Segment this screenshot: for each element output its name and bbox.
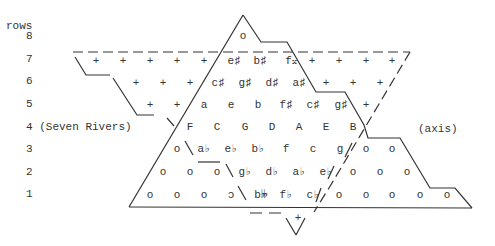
circle-marker-r2: o [187,166,194,178]
baseline [129,207,472,208]
plus-marker-r5: + [174,99,181,111]
note-cell-r5: f♯ [279,99,292,111]
note-cell-r7: b♯ [253,55,266,67]
note-cell-r6: d♯ [265,77,278,89]
axis-label: (axis) [418,123,458,135]
plus-marker-r7: + [201,55,208,67]
plus-marker-r7: + [93,55,100,67]
row-label-1: 1 [26,188,33,200]
note-cell-r4: D [269,121,276,133]
note-cell-r1: c♭ [306,189,319,201]
row-label-8: 8 [26,30,33,42]
circle-marker-r2: o [214,166,221,178]
plus-marker-r7: + [389,55,396,67]
note-cell-r4: F [187,121,194,133]
row-label-5: 5 [26,98,33,110]
plus-marker-r6: + [187,77,194,89]
circle-marker-r8: o [240,30,247,42]
circle-marker-r1: o [336,189,343,201]
plus-marker-r6: + [323,77,330,89]
plus-marker-r7: + [120,55,127,67]
note-cell-r2: d♭ [265,166,278,178]
inner-divider-row2 [226,164,233,177]
circle-marker-r3: o [363,143,370,155]
note-cell-r4: G [242,121,249,133]
plus-marker-r7: + [174,55,181,67]
note-cell-r6: c♯ [211,77,224,89]
plus-marker-r6: + [377,77,384,89]
note-cell-r1: b𝄫 [254,189,268,201]
note-cell-r3: e♭ [224,143,237,155]
note-cell-r7: e♯ [227,55,240,67]
row-label-3: 3 [26,143,33,155]
inner-divider-row1 [238,186,246,200]
circle-marker-r1: o [174,189,181,201]
note-cell-r5: c♯ [306,99,319,111]
note-cell-r3: b♭ [251,143,264,155]
note-cell-r2: g♭ [238,166,251,178]
note-cell-r2: a♭ [292,166,305,178]
plus-marker-r7: + [363,55,370,67]
plus-marker-r7: + [147,55,154,67]
note-cell-r6: g♯ [238,77,251,89]
plus-marker-r5: + [363,99,370,111]
circle-marker-r2: o [377,166,384,178]
circle-marker-r1: o [363,189,370,201]
seven-rivers-diagram: rows 8 7 6 5 4 (Seven Rivers) 3 2 1 (axi… [0,0,495,246]
circle-marker-r2: o [160,166,167,178]
note-cell-r3: f [283,143,290,155]
note-cell-r6: a♯ [292,77,305,89]
plus-marker-below: + [295,212,302,224]
row-label-6: 6 [26,75,33,87]
upper-stepped-edge [243,15,472,208]
row-label-7: 7 [26,53,33,65]
row-label-4-seven-rivers: 4 (Seven Rivers) [26,121,132,133]
left-stepped-edge-lower [167,118,174,126]
note-cell-r3: a♭ [197,143,210,155]
circle-marker-r1: o [444,189,451,201]
circle-marker-r3: o [389,143,396,155]
circle-marker-r3: o [174,143,181,155]
note-cell-r4: E [323,121,330,133]
plus-marker-r6: + [133,77,140,89]
note-cell-r3: c [310,143,317,155]
circle-marker-r1: o [389,189,396,201]
note-cell-r4: B [350,121,357,133]
circle-marker-r1: o [147,189,154,201]
plus-marker-r6: + [350,77,357,89]
plus-marker-r5: + [147,99,154,111]
note-cell-r4: A [296,121,303,133]
circle-marker-r1: ɔ [228,189,235,201]
note-cell-r5: g♯ [334,99,347,111]
plus-marker-r7: + [309,55,316,67]
note-cell-r2: e♭ [319,166,332,178]
note-cell-r5: a [201,99,208,111]
inner-divider-row3 [185,141,193,155]
plus-marker-r7: + [336,55,343,67]
note-cell-r5: b [255,99,262,111]
note-cell-r1: f♭ [279,189,292,201]
circle-marker-r1: o [417,189,424,201]
circle-marker-r1: o [201,189,208,201]
circle-marker-r2: o [350,166,357,178]
row-label-2: 2 [26,166,33,178]
note-cell-r3: g [337,143,344,155]
main-triangle-outline [129,15,243,207]
circle-marker-r2: o [404,166,411,178]
note-cell-r5: e [228,99,235,111]
plus-marker-r6: + [160,77,167,89]
note-cell-r4: C [214,121,221,133]
note-cell-r7: f𝄪 [285,55,297,67]
